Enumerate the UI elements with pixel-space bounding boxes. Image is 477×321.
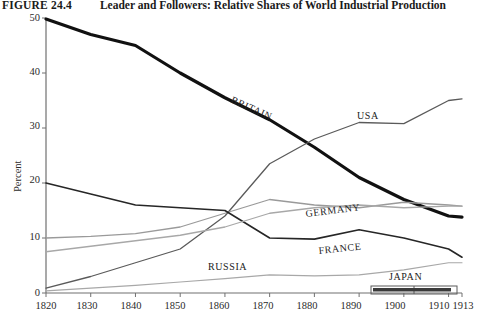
x-tick-label-1840: 1840	[111, 300, 151, 311]
figure-container: FIGURE 24.4 Leader and Followers: Relati…	[0, 0, 477, 321]
series-line-france	[46, 183, 462, 257]
x-tick-label-1900: 1900	[375, 300, 415, 311]
series-line-britain	[46, 19, 462, 217]
x-tick-label-1860: 1860	[199, 300, 239, 311]
y-tick-label-10: 10	[18, 231, 40, 242]
y-tick-label-0: 0	[18, 287, 40, 298]
series-paths-group	[46, 19, 462, 291]
series-label-russia: RUSSIA	[208, 261, 247, 272]
y-tick-label-30: 30	[18, 120, 40, 131]
series-line-usa	[46, 99, 462, 288]
x-tick-label-1850: 1850	[155, 300, 195, 311]
series-label-usa: USA	[357, 110, 379, 121]
y-axis-title: Percent	[12, 161, 23, 193]
y-tick-label-50: 50	[18, 12, 40, 23]
x-tick-label-1880: 1880	[287, 300, 327, 311]
x-tick-label-1913: 1913	[443, 300, 477, 311]
y-tick-label-40: 40	[18, 66, 40, 77]
x-tick-label-1890: 1890	[331, 300, 371, 311]
series-line-germany	[46, 200, 462, 239]
x-tick-label-1820: 1820	[26, 300, 66, 311]
series-label-japan: JAPAN	[389, 271, 422, 282]
x-tick-label-1870: 1870	[243, 300, 283, 311]
chart-plot-area: 50 40 30 20 10 0 Percent 1820 1830 1840 …	[0, 0, 477, 321]
x-tick-label-1830: 1830	[67, 300, 107, 311]
